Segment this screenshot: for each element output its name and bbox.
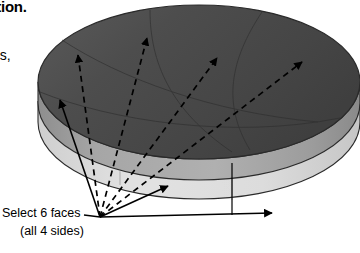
callout-stub-line <box>84 215 100 217</box>
callout-label-line-2: (all 4 sides) <box>20 224 84 238</box>
solid-arrow-bottom-band <box>100 213 272 217</box>
cylinder-top-face <box>38 5 360 159</box>
partial-body-text: ns, <box>0 47 11 63</box>
callout-label-line-1: Select 6 faces <box>2 206 81 220</box>
cylinder-solid <box>38 5 360 200</box>
partial-heading-text: ction. <box>0 0 27 15</box>
